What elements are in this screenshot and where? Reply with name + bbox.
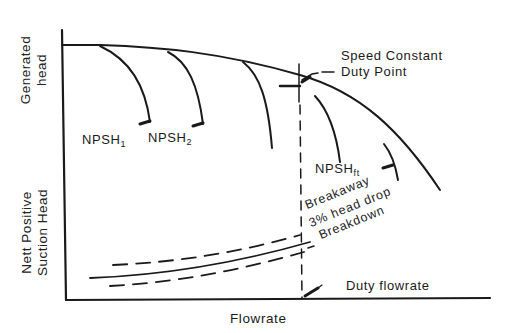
y-label-top-line2: head [34, 25, 50, 115]
breakdown-curve [110, 252, 304, 286]
npshft-label: NPSHft [315, 161, 360, 178]
npsh1-label: NPSH1 [82, 132, 126, 149]
npsh2-subscript: 2 [187, 137, 193, 147]
y-label-bottom-line2: Suction Head [35, 165, 51, 300]
duty-flowrate-label: Duty flowrate [346, 278, 430, 293]
duty-flowrate-leader [318, 285, 322, 288]
npshft-curve [384, 144, 398, 180]
npsh2-text: NPSH [148, 130, 187, 145]
duty-point-label: Duty Point [341, 64, 407, 79]
npsh2-label: NPSH2 [148, 130, 192, 147]
npsh4-curve [315, 96, 340, 162]
y-axis [62, 30, 66, 300]
npsh2-arrow-icon [193, 123, 203, 126]
y-label-bottom-line1: Nett Positive [19, 165, 35, 300]
npsh2-curve [168, 52, 203, 124]
npsh1-curve [100, 46, 150, 122]
x-axis-label: Flowrate [230, 311, 287, 326]
duty-point-arrow-icon [302, 77, 310, 82]
y-axis-label-npsh: Nett Positive Suction Head [19, 165, 51, 300]
y-label-top-line1: Generated [18, 25, 34, 115]
npsh1-subscript: 1 [121, 139, 127, 149]
breakdown-tick [308, 246, 314, 248]
x-axis [66, 298, 490, 300]
npsh1-text: NPSH [82, 132, 121, 147]
npshft-text: NPSH [315, 161, 354, 176]
duty-flowrate-arrow-icon [305, 288, 318, 296]
npsh3-curve [243, 62, 272, 148]
npshft-arrow-icon [383, 165, 393, 168]
speed-constant-label: Speed Constant [341, 48, 443, 63]
duty-flowrate-line [300, 105, 302, 298]
npsh1-arrow-icon [140, 121, 150, 124]
y-axis-label-generated-head: Generated head [18, 25, 50, 115]
